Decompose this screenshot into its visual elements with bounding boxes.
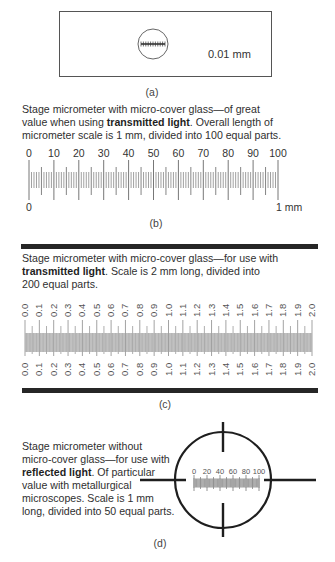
svg-text:20: 20	[203, 467, 211, 476]
svg-text:1.3: 1.3	[206, 304, 217, 317]
panel-a-caption: (a)	[132, 86, 172, 98]
svg-text:1.4: 1.4	[220, 304, 231, 317]
svg-text:2.0: 2.0	[306, 304, 317, 317]
panel-d-caption: (d)	[140, 537, 180, 549]
svg-text:90: 90	[247, 147, 259, 159]
svg-text:0.0: 0.0	[19, 304, 30, 317]
svg-text:0.2: 0.2	[48, 304, 59, 317]
svg-text:1.2: 1.2	[191, 304, 202, 317]
svg-text:80: 80	[222, 147, 234, 159]
svg-text:1.5: 1.5	[234, 304, 245, 317]
svg-text:1.8: 1.8	[277, 363, 288, 376]
svg-text:1.4: 1.4	[220, 363, 231, 376]
svg-text:1.7: 1.7	[263, 363, 274, 376]
svg-text:0.3: 0.3	[62, 304, 73, 317]
svg-text:0.9: 0.9	[148, 304, 159, 317]
svg-text:1.7: 1.7	[263, 304, 274, 317]
svg-text:0.5: 0.5	[91, 363, 102, 376]
panel-c-description: Stage micrometer with micro-cover glass—…	[22, 252, 278, 291]
reticle-crosshair-icon: 020406080100	[130, 418, 325, 542]
svg-text:1.9: 1.9	[292, 363, 303, 376]
svg-text:0.1: 0.1	[33, 363, 44, 376]
svg-text:0.0: 0.0	[19, 363, 30, 376]
svg-text:60: 60	[173, 147, 185, 159]
bottom-divider-bar	[22, 388, 318, 393]
svg-text:0.3: 0.3	[62, 363, 73, 376]
svg-text:50: 50	[148, 147, 160, 159]
svg-text:0.5: 0.5	[91, 304, 102, 317]
scale-b-end-label: 1 mm	[276, 201, 302, 213]
panel-b-description: Stage micrometer with micro-cover glass—…	[22, 103, 281, 142]
svg-text:0.8: 0.8	[134, 363, 145, 376]
svg-text:0: 0	[26, 147, 32, 159]
svg-text:60: 60	[229, 467, 237, 476]
svg-text:0.6: 0.6	[105, 304, 116, 317]
svg-text:1.5: 1.5	[234, 363, 245, 376]
svg-text:1.1: 1.1	[177, 304, 188, 317]
svg-text:0.7: 0.7	[119, 304, 130, 317]
svg-text:0: 0	[192, 467, 196, 476]
svg-text:10: 10	[48, 147, 60, 159]
svg-text:0.8: 0.8	[134, 304, 145, 317]
svg-text:100: 100	[253, 467, 266, 476]
svg-text:1.0: 1.0	[163, 363, 174, 376]
svg-text:70: 70	[197, 147, 209, 159]
scale-b-start-label: 0	[26, 201, 32, 213]
svg-text:0.9: 0.9	[148, 363, 159, 376]
svg-text:1.6: 1.6	[249, 304, 260, 317]
svg-text:1.9: 1.9	[292, 304, 303, 317]
slide-scale-circle-icon	[136, 27, 172, 63]
svg-text:0.4: 0.4	[76, 363, 87, 376]
svg-text:0.1: 0.1	[33, 304, 44, 317]
panel-c-caption: (c)	[145, 398, 185, 410]
svg-text:1.1: 1.1	[177, 363, 188, 376]
svg-text:0.2: 0.2	[48, 363, 59, 376]
scale-value-label: 0.01 mm	[208, 48, 251, 60]
svg-text:0.6: 0.6	[105, 363, 116, 376]
micrometer-scale-c: 0.00.10.20.30.40.50.60.70.80.91.01.11.21…	[0, 295, 335, 383]
svg-text:1.6: 1.6	[249, 363, 260, 376]
svg-text:2.0: 2.0	[306, 363, 317, 376]
svg-text:0.4: 0.4	[76, 304, 87, 317]
svg-text:1.3: 1.3	[206, 363, 217, 376]
svg-text:40: 40	[216, 467, 224, 476]
svg-text:1.0: 1.0	[163, 304, 174, 317]
svg-text:1.8: 1.8	[277, 304, 288, 317]
svg-text:30: 30	[98, 147, 110, 159]
svg-text:100: 100	[269, 147, 287, 159]
top-divider-bar	[21, 244, 318, 249]
panel-b-caption: (b)	[136, 217, 176, 229]
svg-text:20: 20	[73, 147, 85, 159]
svg-text:1.2: 1.2	[191, 363, 202, 376]
svg-text:80: 80	[242, 467, 250, 476]
svg-text:40: 40	[123, 147, 135, 159]
svg-text:0.7: 0.7	[119, 363, 130, 376]
